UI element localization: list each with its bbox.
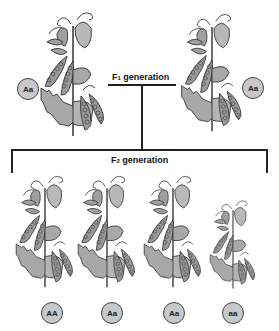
genotype-badge-f2-3: Aa — [163, 302, 185, 324]
f2-label-suffix: generation — [120, 155, 169, 165]
f2-generation-label: F2 generation — [111, 155, 168, 165]
genotype-badge-f2-1: AA — [41, 302, 63, 324]
f2-bracket-horizontal-line — [11, 149, 267, 151]
genotype-badge-f1-left: Aa — [17, 78, 39, 100]
f2-plant-2 — [71, 170, 143, 292]
f2-plant-3 — [137, 170, 209, 292]
f1-label-prefix: F — [112, 72, 118, 82]
f2-label-sub: 2 — [117, 158, 120, 164]
genotype-badge-f2-2: Aa — [101, 302, 123, 324]
f2-label-prefix: F — [111, 155, 117, 165]
genotype-badge-f1-right: Aa — [242, 77, 264, 99]
f1-generation-label: F1 generation — [112, 72, 169, 82]
f1-label-sub: 1 — [118, 75, 121, 81]
f1-plant-left — [33, 6, 113, 141]
f1-to-f2-vertical-line — [141, 84, 143, 149]
f2-plant-4 — [203, 196, 263, 292]
f1-label-suffix: generation — [121, 72, 170, 82]
f1-plant-right — [172, 8, 252, 136]
genotype-badge-f2-4: aa — [222, 302, 244, 324]
f2-bracket-right-line — [266, 149, 268, 173]
